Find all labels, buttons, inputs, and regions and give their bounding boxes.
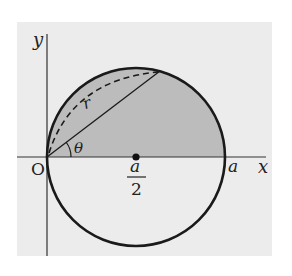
origin-label: O [31,159,45,179]
polar-circle-diagram: y x O θ r a 2 a [0,0,292,276]
center-numerator-label: a [130,156,140,176]
x-axis-label: x [258,156,268,177]
theta-label: θ [74,139,83,157]
x-intercept-label: a [228,156,238,176]
y-axis-label: y [32,29,44,50]
center-denominator-label: 2 [131,179,142,199]
